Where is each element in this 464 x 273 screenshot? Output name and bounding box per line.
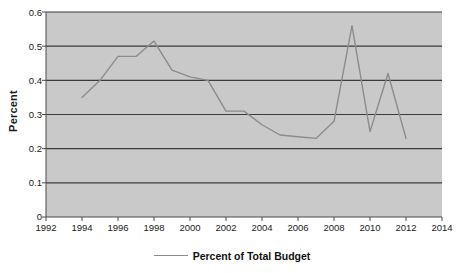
chart-plot-svg	[0, 0, 464, 273]
legend-line-swatch	[154, 255, 188, 256]
chart-container: Percent 0.6 0.5 0.4 0.3 0.2 0.1 0 1992 1…	[0, 0, 464, 273]
legend-label: Percent of Total Budget	[193, 250, 311, 262]
chart-legend: Percent of Total Budget	[0, 249, 464, 262]
